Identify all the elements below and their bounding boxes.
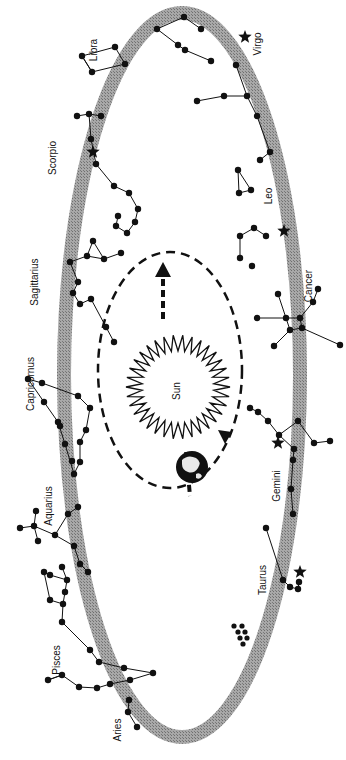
star-dot <box>267 149 273 155</box>
star-dot <box>60 601 66 607</box>
star-dot <box>255 409 261 415</box>
star-dot <box>288 486 294 492</box>
star-dot <box>75 393 81 399</box>
label-sagittarius: Sagittarius <box>29 258 40 305</box>
star-dot <box>295 586 301 592</box>
label-capricornus: Capricornus <box>25 357 36 411</box>
star-dot <box>265 418 271 424</box>
star-dot <box>77 459 83 465</box>
star-dot <box>194 98 200 104</box>
constellation-line <box>62 622 90 650</box>
label-aries: Aries <box>112 719 123 742</box>
star-dot <box>107 681 113 687</box>
constellation-line <box>130 673 153 680</box>
star-dot <box>235 167 241 173</box>
star-dot <box>242 629 247 634</box>
star-dot <box>45 677 51 683</box>
constellation-line <box>55 514 68 535</box>
star-dot <box>112 44 118 50</box>
star-dot <box>113 223 119 229</box>
star-dot <box>263 233 269 239</box>
star-dot <box>35 538 41 544</box>
star-dot <box>280 577 286 583</box>
star-dot <box>52 532 58 538</box>
star-dot <box>249 263 255 269</box>
star-dot <box>126 190 132 196</box>
star-dot <box>257 157 263 163</box>
star-dot <box>236 190 242 196</box>
star-dot <box>296 579 302 585</box>
star-dot <box>41 399 47 405</box>
star-dot <box>17 525 23 531</box>
star-dot <box>237 635 242 640</box>
star-dot <box>31 523 37 529</box>
star-dot <box>77 301 83 307</box>
zodiac-diagram: Sun Libra Virgo Scorpio Leo Sagittarius … <box>0 0 346 760</box>
star-dot <box>287 327 293 333</box>
star-dot <box>231 623 236 628</box>
star-dot <box>127 677 133 683</box>
star-dot <box>71 471 77 477</box>
star-dot <box>244 93 250 99</box>
star-dot <box>74 113 80 119</box>
star-dot <box>315 286 321 292</box>
star-dot <box>84 253 90 259</box>
arrow-head-icon <box>155 262 171 277</box>
label-pisces: Pisces <box>51 645 62 674</box>
label-scorpio: Scorpio <box>47 141 58 175</box>
star-dot <box>75 504 81 510</box>
star-icon <box>238 30 251 43</box>
sun-label: Sun <box>171 382 182 400</box>
star-dot <box>121 665 127 671</box>
star-dot <box>118 250 124 256</box>
label-virgo: Virgo <box>252 32 263 56</box>
star-dot <box>240 641 245 646</box>
star-dot <box>276 432 282 438</box>
star-dot <box>67 259 73 265</box>
star-dot <box>33 508 39 514</box>
constellation-line <box>91 299 106 327</box>
label-libra: Libra <box>88 38 99 61</box>
star-dot <box>62 589 68 595</box>
constellation-line <box>274 330 290 346</box>
star-dot <box>221 93 227 99</box>
star-dot <box>41 569 47 575</box>
star-dot <box>290 511 296 517</box>
star-dot <box>115 213 121 219</box>
star-dot <box>88 296 94 302</box>
star-dot <box>235 629 240 634</box>
star-dot <box>59 619 65 625</box>
star-dot <box>76 684 82 690</box>
star-dot <box>135 206 141 212</box>
star-dot <box>79 53 85 59</box>
constellation-line <box>44 402 58 422</box>
star-dot <box>290 457 296 463</box>
label-gemini: Gemini <box>271 470 282 502</box>
star-dot <box>86 111 92 117</box>
star-dot <box>283 315 289 321</box>
constellation-line <box>96 164 114 186</box>
star-dot <box>126 697 132 703</box>
star-dot <box>327 438 333 444</box>
star-dot <box>233 62 239 68</box>
star-dot <box>47 572 53 578</box>
label-leo: Leo <box>263 187 274 204</box>
star-dot <box>181 14 187 20</box>
star-dot <box>94 685 100 691</box>
star-dot <box>124 230 130 236</box>
constellation-line <box>34 526 55 535</box>
star-dot <box>132 219 138 225</box>
star-icon <box>293 565 306 578</box>
star-dot <box>175 42 181 48</box>
star-dot <box>77 439 83 445</box>
star-dot <box>93 161 99 167</box>
star-dot <box>111 339 117 345</box>
star-dot <box>134 724 140 730</box>
constellation-line <box>124 668 153 673</box>
star-dot <box>237 255 243 261</box>
star-dot <box>251 225 257 231</box>
star-dot <box>263 525 269 531</box>
star-dot <box>65 511 71 517</box>
star-dot <box>89 69 95 75</box>
star-dot <box>39 380 45 386</box>
